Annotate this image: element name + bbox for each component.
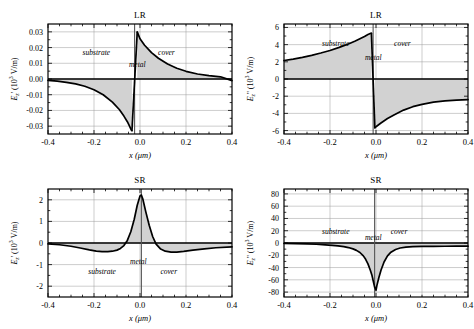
x-tick-label: 0.2 [181, 137, 192, 147]
y-tick-label: 6 [240, 23, 279, 32]
x-axis-label: x (μm) [48, 150, 232, 160]
y-axis-label-symbol: Ez'' [246, 91, 255, 101]
y-tick-label: 2 [4, 195, 43, 204]
region-annotation-substrate: substrate [88, 266, 116, 275]
y-axis-label-units: (103 V/m) [10, 57, 19, 91]
region-annotation-cover: cover [160, 266, 177, 275]
x-tick-label: -0.2 [323, 300, 336, 310]
y-axis-label: Ez'' (103 V/m) [244, 211, 256, 275]
plot-panel-sr-real: SR210-1-2-0.4-0.20.00.20.4x (μm)Ez' (103… [4, 171, 234, 329]
x-tick-label: 0.4 [227, 137, 238, 147]
region-annotation-metal: metal [365, 232, 382, 241]
y-tick-label: 0.03 [4, 27, 43, 36]
region-annotation-cover: cover [394, 39, 411, 48]
x-tick-label: 0.0 [135, 137, 146, 147]
x-tick-label: -0.2 [323, 137, 336, 147]
x-tick-label: 0.0 [371, 300, 382, 310]
y-tick-label: -60 [240, 275, 279, 284]
x-tick-label: 0.2 [417, 137, 428, 147]
region-annotation-metal: metal [365, 53, 382, 62]
y-tick-label: -6 [240, 126, 279, 135]
y-axis-label-units: (103 V/m) [10, 221, 19, 255]
x-tick-label: -0.2 [87, 300, 100, 310]
y-axis-label: Ez'' (103 V/m) [244, 47, 256, 111]
x-tick-label: -0.2 [87, 137, 100, 147]
x-tick-label: -0.4 [41, 137, 54, 147]
x-tick-label: -0.4 [277, 137, 290, 147]
x-tick-label: 0.0 [371, 137, 382, 147]
x-tick-label: 0.4 [227, 300, 238, 310]
plot-panel-sr-imag: SR806040200-20-40-60-80-0.4-0.20.00.20.4… [240, 171, 470, 329]
region-annotation-substrate: substrate [322, 39, 350, 48]
y-axis-label-symbol: Ez' [10, 256, 19, 265]
y-tick-label: -80 [240, 288, 279, 297]
region-annotation-metal: metal [129, 60, 146, 69]
region-annotation-substrate: substrate [83, 47, 111, 56]
y-axis-label: Ez' (103 V/m) [8, 211, 20, 275]
x-tick-label: 0.2 [181, 300, 192, 310]
y-axis-label-symbol: Ez'' [246, 255, 255, 265]
y-tick-label: 60 [240, 202, 279, 211]
y-axis-label-symbol: Ez' [10, 92, 19, 101]
x-tick-label: -0.4 [277, 300, 290, 310]
y-tick-label: 80 [240, 189, 279, 198]
y-tick-label: -0.03 [4, 122, 43, 131]
x-axis-label: x (μm) [284, 150, 468, 160]
plot-panel-lr-imag: LR6420-2-4-6-0.4-0.20.00.20.4x (μm)Ez'' … [240, 6, 470, 164]
y-axis-label-units: (103 V/m) [246, 57, 255, 91]
figure-root: LR0.030.020.010.00-0.01-0.02-0.03-0.4-0.… [0, 0, 474, 329]
region-annotation-cover: cover [391, 227, 408, 236]
x-tick-label: 0.4 [463, 300, 474, 310]
y-axis-label-units: (103 V/m) [246, 221, 255, 255]
region-annotation-substrate: substrate [322, 227, 350, 236]
x-tick-label: -0.4 [41, 300, 54, 310]
x-axis-label: x (μm) [48, 313, 232, 323]
plot-panel-lr-real: LR0.030.020.010.00-0.01-0.02-0.03-0.4-0.… [4, 6, 234, 164]
x-tick-label: 0.0 [135, 300, 146, 310]
x-tick-label: 0.2 [417, 300, 428, 310]
y-axis-label: Ez' (103 V/m) [8, 47, 20, 111]
x-tick-label: 0.4 [463, 137, 474, 147]
y-tick-label: -2 [4, 282, 43, 291]
region-annotation-cover: cover [158, 47, 175, 56]
region-annotation-metal: metal [130, 256, 147, 265]
x-axis-label: x (μm) [284, 313, 468, 323]
